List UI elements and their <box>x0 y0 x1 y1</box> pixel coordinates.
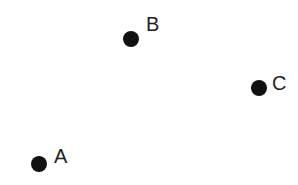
point-b-dot <box>123 31 139 47</box>
diagram-canvas: A B C <box>0 0 298 185</box>
point-c-dot <box>251 80 267 96</box>
point-a-label: A <box>54 146 67 166</box>
point-b-label: B <box>146 14 159 34</box>
point-a-dot <box>31 156 47 172</box>
point-c-label: C <box>272 73 286 93</box>
